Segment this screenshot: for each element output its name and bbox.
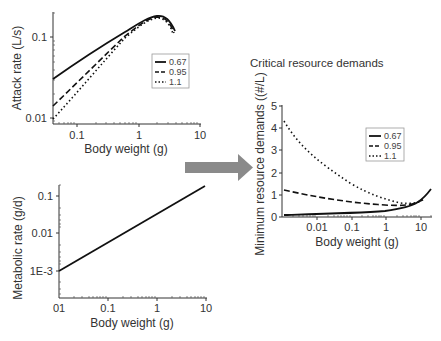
attack-rate-chart: Attack rate (L/s) 0.1 0.01 0.1 1 10 Body… [10,12,206,156]
attack-xtick-label: 0.1 [69,129,84,141]
demands-ylabel: Minimum resource demands ((#/L) [253,72,267,255]
demands-xtick-label: 10 [415,221,427,233]
right-arrow-icon [185,154,253,181]
demands-ytick-label: 5 [271,100,277,112]
attack-ylabel: Attack rate (L/s) [10,26,24,111]
demands-ytick-label: 3 [271,144,277,156]
attack-legend: 0.67 0.95 1.1 [152,54,189,88]
metabolic-rate-chart: Metabolic rate (g/d) 0.1 0.01 1E-3 01 0.… [11,185,212,330]
demands-xtick-label: 0.1 [344,221,359,233]
svg-text:0.67: 0.67 [384,131,402,141]
svg-text:0.95: 0.95 [384,141,402,151]
attack-ytick-label: 0.01 [26,112,47,124]
demands-ytick-label: 4 [271,122,277,134]
svg-text:0.67: 0.67 [169,57,187,67]
metabolic-ytick-label: 1E-3 [30,265,53,277]
metabolic-ytick-label: 0.1 [38,190,53,202]
demands-ytick-label: 0 [271,211,277,223]
metabolic-xtick-label: 01 [53,302,65,314]
metabolic-ylabel: Metabolic rate (g/d) [11,196,25,299]
attack-xlabel: Body weight (g) [84,142,167,156]
attack-xtick-label: 10 [194,129,206,141]
demands-ytick-label: 1 [271,189,277,201]
demands-xlabel: Body weight (g) [315,235,398,249]
metabolic-xtick-label: 1 [154,302,160,314]
demands-title: Critical resource demands [250,57,384,69]
demands-xtick-label: 1 [383,221,389,233]
resource-demands-chart: Critical resource demands Minimum resour… [250,57,432,256]
figure: Attack rate (L/s) 0.1 0.01 0.1 1 10 Body… [0,0,441,341]
metabolic-xlabel: Body weight (g) [90,316,173,330]
attack-ytick-label: 0.1 [32,31,47,43]
demands-series-0.95 [284,190,425,205]
attack-xtick-label: 1 [136,129,142,141]
demands-xtick-label: 0.01 [306,221,327,233]
metabolic-series [59,186,205,271]
metabolic-xtick-label: 0.1 [100,302,115,314]
metabolic-xtick-label: 10 [200,302,212,314]
svg-text:0.95: 0.95 [169,67,187,77]
metabolic-ytick-label: 0.01 [32,227,53,239]
demands-legend: 0.67 0.95 1.1 [366,128,404,161]
svg-text:1.1: 1.1 [384,151,397,161]
demands-ytick-label: 2 [271,167,277,179]
svg-text:1.1: 1.1 [169,77,182,87]
